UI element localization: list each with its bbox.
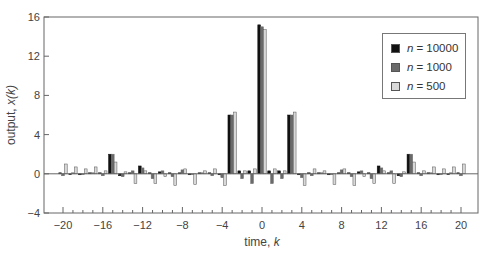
bar <box>141 168 144 174</box>
y-tick-label: 16 <box>28 11 40 23</box>
bar <box>253 169 256 174</box>
bar <box>241 174 244 179</box>
bar <box>373 174 376 184</box>
bar <box>271 174 274 184</box>
y-axis-ticks: −40481216 <box>27 11 49 219</box>
bar <box>410 154 413 174</box>
bar <box>111 154 114 174</box>
bar <box>333 174 336 185</box>
bar <box>313 169 316 174</box>
bar <box>224 174 227 186</box>
bar <box>380 168 383 174</box>
bar <box>214 169 217 174</box>
bar <box>288 115 291 174</box>
bar <box>64 164 67 174</box>
y-tick-label: 12 <box>28 50 40 62</box>
legend-swatch-black <box>391 44 400 53</box>
bar <box>433 167 436 174</box>
legend-swatch-light <box>391 82 400 91</box>
bar <box>377 166 380 174</box>
bar <box>114 162 117 174</box>
x-axis-label: time, k <box>244 235 280 249</box>
y-tick-label: 8 <box>34 89 40 101</box>
bar <box>300 174 303 178</box>
y-tick-label: 4 <box>34 129 40 141</box>
bar <box>194 174 197 185</box>
legend: n = 10000 n = 1000 n = 500 <box>382 33 466 99</box>
bar <box>393 174 396 184</box>
x-axis-ticks: −20−16−12−8−4048121620 <box>54 207 467 231</box>
bar <box>353 174 356 186</box>
bar <box>231 115 234 174</box>
bar <box>94 167 97 174</box>
bar <box>303 174 306 186</box>
bar <box>273 169 276 174</box>
x-tick-label: 4 <box>299 219 305 231</box>
bar <box>293 112 296 174</box>
bar <box>138 166 141 174</box>
bar <box>228 115 231 174</box>
legend-item-n10000: n = 10000 <box>391 41 458 55</box>
x-tick-label: −4 <box>216 219 229 231</box>
x-tick-label: −12 <box>133 219 152 231</box>
bar <box>109 154 112 174</box>
bar <box>281 174 284 179</box>
y-axis-label: output, x(k) <box>4 85 18 145</box>
x-tick-label: −20 <box>54 219 73 231</box>
bar <box>413 162 416 174</box>
legend-item-n500: n = 500 <box>391 79 446 93</box>
bar <box>251 174 254 184</box>
x-tick-label: 20 <box>455 219 467 231</box>
x-tick-label: 16 <box>415 219 427 231</box>
x-tick-label: −16 <box>93 219 112 231</box>
bar <box>181 170 184 174</box>
bar <box>174 174 177 186</box>
bar <box>74 167 77 174</box>
bar <box>134 174 137 184</box>
bar <box>258 25 261 174</box>
bar <box>263 30 266 174</box>
x-tick-label: 12 <box>375 219 387 231</box>
legend-item-n1000: n = 1000 <box>391 60 452 74</box>
bar <box>370 174 373 179</box>
bar <box>290 115 293 174</box>
y-tick-label: 0 <box>34 168 40 180</box>
bar <box>184 169 187 174</box>
x-tick-label: 0 <box>259 219 265 231</box>
bar <box>221 174 224 178</box>
legend-swatch-gray <box>391 63 400 72</box>
bar <box>407 154 410 174</box>
bar <box>261 27 264 174</box>
x-tick-label: 8 <box>339 219 345 231</box>
bar <box>84 169 87 174</box>
bar <box>151 174 154 179</box>
bar <box>343 169 346 174</box>
bar <box>452 167 455 174</box>
y-tick-label: −4 <box>27 207 40 219</box>
bar <box>340 170 343 174</box>
bar <box>443 169 446 174</box>
bar <box>462 164 465 174</box>
bar <box>154 174 157 184</box>
x-tick-label: −8 <box>176 219 189 231</box>
bar <box>234 112 237 174</box>
